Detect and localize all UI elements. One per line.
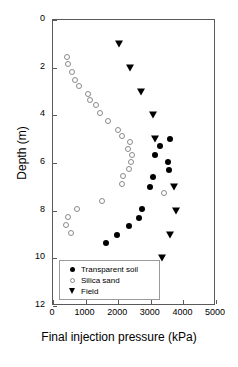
data-point	[161, 190, 167, 196]
y-tick	[53, 20, 57, 21]
data-point	[115, 127, 121, 133]
data-point	[65, 214, 71, 220]
data-point	[150, 174, 156, 180]
y-tick-label: 6	[0, 156, 45, 167]
x-axis-title: Final injection pressure (kPa)	[0, 330, 238, 344]
data-point	[149, 112, 157, 119]
y-tick-label: 0	[0, 13, 45, 24]
y-tick	[53, 211, 57, 212]
y-tick	[53, 115, 57, 116]
data-point	[126, 223, 132, 229]
x-tick	[216, 300, 217, 304]
legend-item: Silica sand	[63, 275, 157, 285]
data-point	[105, 118, 111, 124]
data-point	[157, 143, 163, 149]
data-point	[93, 102, 99, 108]
y-tick-label: 2	[0, 61, 45, 72]
data-point	[126, 64, 134, 71]
data-point	[147, 184, 153, 190]
data-point	[97, 110, 103, 116]
legend-item: Field	[63, 286, 157, 296]
legend-item-label: Field	[81, 287, 98, 296]
data-point	[74, 206, 80, 212]
legend-marker-open-circle-icon	[63, 278, 81, 283]
legend-item-label: Transparent soil	[81, 265, 138, 274]
y-tick	[53, 163, 57, 164]
figure: Depth (m) Transparent soilSilica sandFie…	[0, 0, 238, 367]
data-point	[114, 232, 120, 238]
data-point	[166, 231, 174, 238]
plot-area: Transparent soilSilica sandField	[52, 19, 215, 305]
marker-glyph	[69, 288, 75, 294]
data-point	[151, 136, 159, 143]
data-point	[128, 159, 134, 165]
legend-item: Transparent soil	[63, 264, 157, 274]
legend-marker-filled-triangle-down-icon	[63, 288, 81, 294]
legend: Transparent soilSilica sandField	[59, 260, 160, 300]
data-point	[119, 181, 125, 187]
data-point	[126, 166, 132, 172]
data-point	[165, 159, 171, 165]
data-point	[172, 207, 180, 214]
data-point	[139, 206, 145, 212]
y-tick-label: 12	[0, 299, 45, 310]
x-tick	[86, 300, 87, 304]
figure-caption	[4, 352, 234, 365]
y-axis-title: Depth (m)	[15, 83, 29, 223]
y-tick-label: 4	[0, 108, 45, 119]
data-point	[166, 167, 172, 173]
legend-marker-filled-circle-icon	[63, 267, 81, 272]
data-point	[170, 183, 178, 190]
data-point	[68, 230, 74, 236]
data-point	[119, 133, 125, 139]
data-point	[99, 198, 105, 204]
x-tick	[151, 300, 152, 304]
data-point	[64, 54, 70, 60]
y-tick-label: 10	[0, 251, 45, 262]
data-point	[137, 88, 145, 95]
x-tick	[118, 300, 119, 304]
x-tick	[183, 300, 184, 304]
data-point	[152, 152, 158, 158]
x-tick-label: 5000	[195, 307, 235, 318]
data-point	[63, 222, 69, 228]
data-point	[115, 40, 123, 47]
data-point	[167, 136, 173, 142]
data-point	[65, 61, 71, 67]
legend-item-label: Silica sand	[81, 276, 120, 285]
data-point	[120, 173, 126, 179]
y-tick	[53, 68, 57, 69]
data-point	[69, 69, 75, 75]
data-point	[87, 97, 93, 103]
data-point	[76, 83, 82, 89]
y-tick-label: 8	[0, 204, 45, 215]
marker-glyph	[70, 267, 75, 272]
x-tick	[53, 300, 54, 304]
marker-glyph	[70, 278, 75, 283]
data-point	[127, 139, 133, 145]
y-tick	[53, 258, 57, 259]
data-point	[136, 215, 142, 221]
data-point	[129, 152, 135, 158]
data-point	[103, 240, 109, 246]
